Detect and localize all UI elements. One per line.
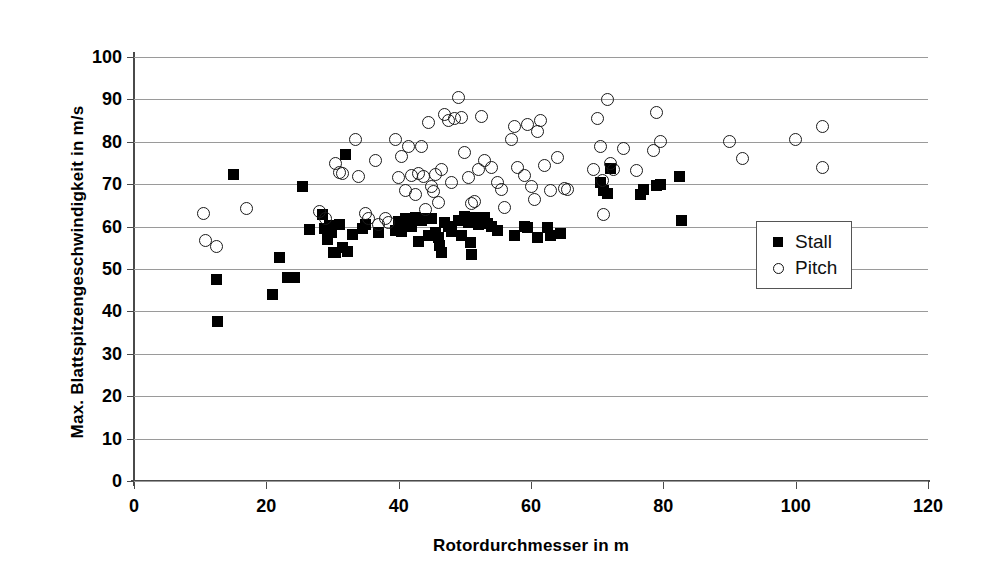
data-point-stall	[297, 181, 308, 192]
data-point-pitch	[601, 93, 614, 106]
data-point-stall	[638, 184, 649, 195]
data-point-pitch	[495, 183, 508, 196]
gridline	[134, 311, 928, 312]
data-point-pitch	[485, 161, 498, 174]
data-point-pitch	[528, 193, 541, 206]
data-point-stall	[676, 215, 687, 226]
data-point-stall	[211, 274, 222, 285]
data-point-pitch	[352, 170, 365, 183]
gridline	[134, 439, 928, 440]
legend-label: Pitch	[795, 257, 837, 279]
data-point-pitch	[458, 146, 471, 159]
data-point-pitch	[415, 140, 428, 153]
chart-legend: StallPitch	[756, 221, 852, 289]
data-point-pitch	[422, 116, 435, 129]
data-point-pitch	[455, 111, 468, 124]
data-point-pitch	[534, 114, 547, 127]
filled-square-icon	[767, 237, 789, 247]
data-point-pitch	[435, 163, 448, 176]
data-point-stall	[602, 188, 613, 199]
data-point-stall	[492, 225, 503, 236]
x-tick-mark	[531, 481, 532, 489]
data-point-stall	[465, 237, 476, 248]
x-tick-mark	[663, 481, 664, 489]
gridline	[134, 142, 928, 143]
data-point-pitch	[319, 212, 332, 225]
data-point-pitch	[389, 133, 402, 146]
data-point-stall	[228, 169, 239, 180]
data-point-pitch	[816, 161, 829, 174]
data-point-pitch	[650, 106, 663, 119]
data-point-stall	[340, 149, 351, 160]
data-point-stall	[466, 249, 477, 260]
x-tick-mark	[134, 481, 135, 489]
data-point-pitch	[591, 112, 604, 125]
data-point-pitch	[452, 91, 465, 104]
legend-item-pitch: Pitch	[767, 255, 837, 281]
data-point-pitch	[723, 135, 736, 148]
data-point-stall	[212, 316, 223, 327]
legend-label: Stall	[795, 231, 832, 253]
data-point-pitch	[607, 163, 620, 176]
gridline	[134, 396, 928, 397]
data-point-pitch	[617, 142, 630, 155]
data-point-pitch	[654, 135, 667, 148]
data-point-stall	[304, 224, 315, 235]
x-tick-mark	[796, 481, 797, 489]
data-point-pitch	[419, 203, 432, 216]
data-point-pitch	[594, 140, 607, 153]
data-point-pitch	[538, 159, 551, 172]
data-point-stall	[555, 228, 566, 239]
data-point-stall	[532, 232, 543, 243]
data-point-pitch	[736, 152, 749, 165]
gridline	[134, 99, 928, 100]
data-point-pitch	[525, 180, 538, 193]
data-point-stall	[334, 219, 345, 230]
data-point-pitch	[468, 195, 481, 208]
data-point-pitch	[409, 188, 422, 201]
x-tick-mark	[928, 481, 929, 489]
data-point-pitch	[445, 176, 458, 189]
data-point-pitch	[336, 167, 349, 180]
data-point-stall	[674, 171, 685, 182]
x-tick-mark	[399, 481, 400, 489]
legend-marker	[773, 263, 784, 274]
x-axis-title: Rotordurchmesser in m	[134, 536, 928, 556]
data-point-stall	[655, 179, 666, 190]
scatter-chart: Max. Blattspitzengeschwindigkeit in m/s …	[0, 0, 993, 583]
data-point-pitch	[402, 140, 415, 153]
data-point-pitch	[816, 120, 829, 133]
data-point-pitch	[432, 196, 445, 209]
data-point-pitch	[349, 133, 362, 146]
open-circle-icon	[767, 263, 789, 274]
data-point-stall	[274, 252, 285, 263]
data-point-pitch	[210, 240, 223, 253]
data-point-pitch	[551, 151, 564, 164]
data-point-pitch	[508, 120, 521, 133]
data-point-pitch	[240, 202, 253, 215]
gridline	[134, 481, 928, 482]
data-point-pitch	[475, 110, 488, 123]
data-point-pitch	[597, 208, 610, 221]
data-point-pitch	[392, 171, 405, 184]
data-point-pitch	[561, 183, 574, 196]
data-point-pitch	[630, 164, 643, 177]
data-point-pitch	[197, 207, 210, 220]
data-point-stall	[267, 289, 278, 300]
gridline	[134, 57, 928, 58]
gridline	[134, 354, 928, 355]
data-point-pitch	[789, 133, 802, 146]
data-point-stall	[342, 246, 353, 257]
data-point-stall	[436, 247, 447, 258]
data-point-pitch	[505, 133, 518, 146]
x-tick-mark	[266, 481, 267, 489]
data-point-pitch	[498, 201, 511, 214]
data-point-pitch	[544, 184, 557, 197]
data-point-pitch	[369, 154, 382, 167]
legend-item-stall: Stall	[767, 229, 837, 255]
data-point-stall	[289, 272, 300, 283]
legend-marker	[773, 237, 783, 247]
